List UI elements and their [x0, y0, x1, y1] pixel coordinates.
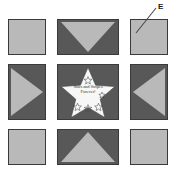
- quilt-block-diagram: Stars and Stripes Forever!: [0, 0, 175, 172]
- plain-square-shape: [8, 19, 46, 55]
- quilt-block-center: Stars and Stripes Forever!: [57, 64, 119, 120]
- quilt-block-bottom-left: [8, 129, 46, 165]
- quilt-block-bottom-right: [130, 129, 168, 165]
- plain-square-shape: [130, 129, 168, 165]
- quilt-block-middle-left: [8, 64, 46, 120]
- center-star-shape: [57, 64, 119, 120]
- quilt-block-top-right: [130, 19, 168, 55]
- triangle-up-shape: [57, 129, 119, 165]
- triangle-right-shape: [8, 64, 46, 120]
- plain-square-shape: [130, 19, 168, 55]
- quilt-block-top-left: [8, 19, 46, 55]
- plain-square-shape: [8, 129, 46, 165]
- triangle-left-shape: [130, 64, 168, 120]
- callout-label-e: E: [158, 2, 163, 11]
- quilt-block-bottom-center: [57, 129, 119, 165]
- quilt-block-top-center: [57, 19, 119, 55]
- quilt-block-middle-right: [130, 64, 168, 120]
- triangle-down-shape: [57, 19, 119, 55]
- quilt-grid: Stars and Stripes Forever!: [8, 19, 168, 165]
